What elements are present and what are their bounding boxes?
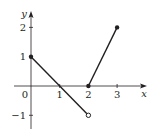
closed-endpoint-dot: [115, 25, 119, 29]
axes: xy: [14, 8, 147, 129]
ticks: 012321−1: [11, 22, 120, 121]
line-segment: [88, 27, 117, 86]
y-axis-label: y: [20, 8, 27, 19]
closed-endpoint-dot: [86, 84, 90, 88]
series: [29, 25, 120, 117]
segment-2: [86, 25, 119, 88]
x-axis-label: x: [141, 88, 147, 99]
y-tick-label: 2: [20, 22, 26, 33]
x-tick-label: 2: [85, 89, 91, 100]
x-tick-label: 0: [22, 89, 28, 100]
open-endpoint-dot: [86, 113, 90, 117]
x-tick-label: 1: [57, 89, 63, 100]
x-tick-label: 3: [114, 89, 120, 100]
closed-endpoint-dot: [29, 55, 33, 59]
y-tick-label: 1: [20, 51, 26, 62]
y-tick-label: −1: [11, 110, 26, 121]
piecewise-function-plot: xy 012321−1: [0, 0, 155, 140]
